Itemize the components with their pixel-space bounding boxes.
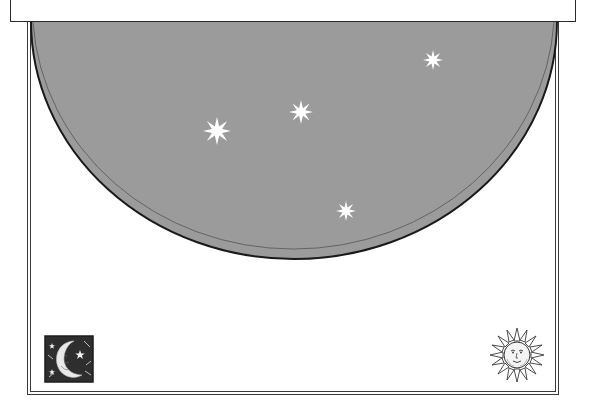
sun-icon [489,327,545,383]
star-icon [336,201,356,221]
star-icon [423,50,443,70]
moon-icon [44,335,94,383]
star-icon [289,100,313,124]
header-box [10,0,576,22]
stationery-page: Crescent moon with stars Sun with face [0,0,589,414]
